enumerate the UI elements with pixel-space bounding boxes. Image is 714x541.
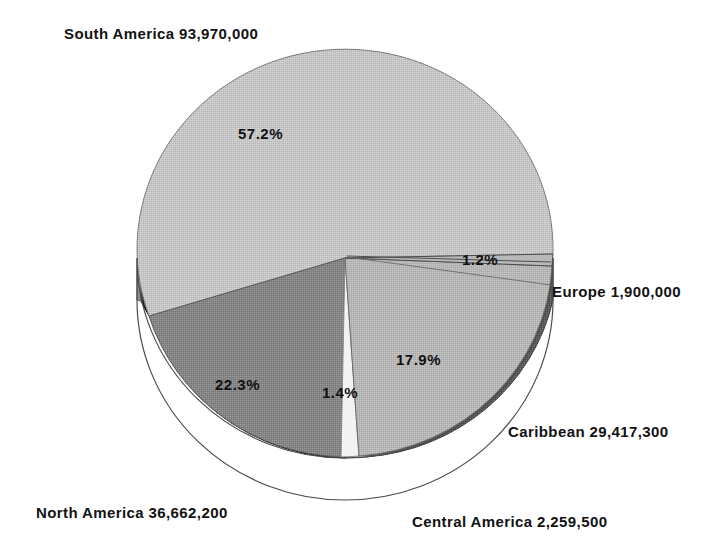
pie-chart-graphic bbox=[0, 0, 714, 541]
label-europe: Europe 1,900,000 bbox=[552, 284, 681, 299]
percent-label-north-america: 22.3% bbox=[215, 377, 260, 392]
label-south-america: South America 93,970,000 bbox=[64, 26, 258, 41]
percent-label-europe: 1.2% bbox=[462, 252, 498, 267]
label-caribbean: Caribbean 29,417,300 bbox=[508, 424, 669, 439]
percent-label-caribbean: 17.9% bbox=[396, 352, 441, 367]
pie-chart-figure: South America 93,970,000 Europe 1,900,00… bbox=[0, 0, 714, 541]
percent-label-south-america: 57.2% bbox=[238, 126, 283, 141]
percent-label-central-america: 1.4% bbox=[322, 385, 358, 400]
label-north-america: North America 36,662,200 bbox=[36, 505, 228, 520]
label-central-america: Central America 2,259,500 bbox=[412, 514, 607, 529]
